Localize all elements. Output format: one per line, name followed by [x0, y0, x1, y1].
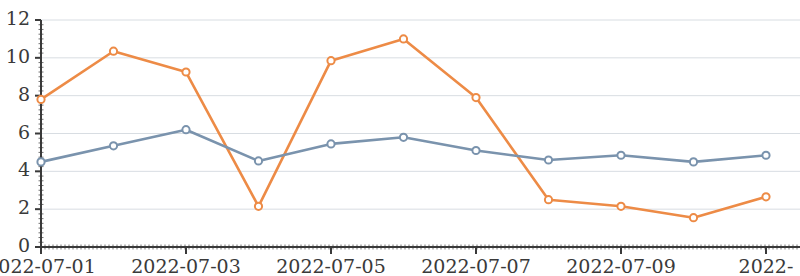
y-tick-label: 10 [0, 45, 30, 67]
data-point-marker[interactable] [327, 57, 334, 64]
x-tick-label: 2022-07-05 [271, 255, 391, 276]
x-tick-label: 2022- [706, 255, 800, 276]
x-tick-label: 2022-07-03 [126, 255, 246, 276]
data-point-marker[interactable] [472, 147, 479, 154]
data-point-marker[interactable] [762, 152, 769, 159]
data-point-marker[interactable] [400, 134, 407, 141]
data-point-marker[interactable] [255, 157, 262, 164]
data-point-marker[interactable] [182, 126, 189, 133]
data-point-marker[interactable] [690, 214, 697, 221]
x-tick-label: 2022-07-01 [0, 255, 101, 276]
data-point-marker[interactable] [690, 158, 697, 165]
y-tick-label: 6 [0, 121, 30, 143]
x-tick-label: 2022-07-07 [416, 255, 536, 276]
chart-plot-area [0, 0, 800, 276]
data-point-marker[interactable] [37, 96, 44, 103]
data-point-marker[interactable] [255, 203, 262, 210]
y-tick-label: 8 [0, 83, 30, 105]
y-tick-label: 4 [0, 158, 30, 180]
x-tick-label: 2022-07-09 [561, 255, 681, 276]
data-point-marker[interactable] [327, 140, 334, 147]
line-chart: 024681012 2022-07-012022-07-032022-07-05… [0, 0, 800, 276]
y-tick-label: 12 [0, 7, 30, 29]
data-point-marker[interactable] [617, 203, 624, 210]
data-point-marker[interactable] [37, 158, 44, 165]
data-point-marker[interactable] [472, 94, 479, 101]
series-line-1 [41, 39, 766, 218]
data-point-marker[interactable] [762, 193, 769, 200]
data-series-layer [37, 35, 769, 221]
data-point-marker[interactable] [182, 68, 189, 75]
data-point-marker[interactable] [617, 152, 624, 159]
data-point-marker[interactable] [110, 48, 117, 55]
data-point-marker[interactable] [545, 196, 552, 203]
data-point-marker[interactable] [545, 156, 552, 163]
data-point-marker[interactable] [400, 35, 407, 42]
data-point-marker[interactable] [110, 142, 117, 149]
y-tick-label: 0 [0, 234, 30, 256]
y-tick-label: 2 [0, 196, 30, 218]
